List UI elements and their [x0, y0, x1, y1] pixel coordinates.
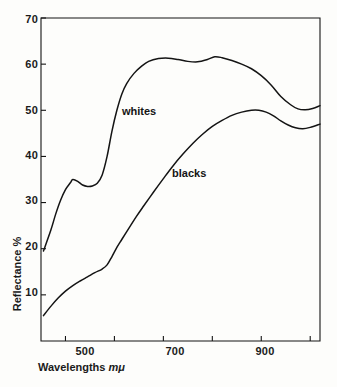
x-tick-label-500: 500: [65, 345, 105, 357]
series-line-blacks: [43, 110, 320, 316]
y-tick-label-30: 30: [14, 194, 38, 206]
x-axis-label: Wavelengths mμ: [38, 361, 125, 373]
x-tick-label-900: 900: [245, 345, 285, 357]
series-label-whites: whites: [122, 105, 156, 117]
y-tick-label-40: 40: [14, 149, 38, 161]
series-line-whites: [43, 57, 320, 251]
x-axis-label-text: Wavelengths: [38, 361, 105, 373]
plot-frame: [41, 18, 320, 341]
y-tick-label-70: 70: [14, 13, 38, 25]
y-tick-label-60: 60: [14, 58, 38, 70]
reflectance-chart: 70 60 50 40 30 20 10 500 700 900 Reflect…: [0, 0, 337, 387]
chart-plot-area: [0, 0, 337, 387]
series-label-blacks: blacks: [172, 167, 206, 179]
y-axis-label: Reflectance %: [11, 219, 23, 329]
y-tick-label-50: 50: [14, 104, 38, 116]
x-tick-label-700: 700: [155, 345, 195, 357]
x-axis-label-unit: mμ: [109, 361, 125, 373]
